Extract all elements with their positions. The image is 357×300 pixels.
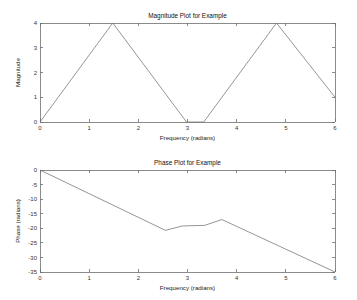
- x-tick-label: 4: [235, 275, 239, 281]
- phase-plot-svg: 0123456-35-30-25-20-15-10-50Phase Plot f…: [0, 150, 357, 300]
- y-tick-label: 3: [34, 45, 38, 51]
- y-tick-label: -25: [28, 240, 37, 246]
- x-axis-label: Frequency (radians): [160, 134, 215, 141]
- x-axis-label: Frequency (radians): [160, 284, 215, 291]
- y-tick-label: 1: [34, 94, 38, 100]
- x-tick-label: 6: [333, 275, 337, 281]
- y-tick-label: 0: [34, 119, 38, 125]
- y-tick-label: -35: [28, 269, 37, 275]
- y-tick-label: -20: [28, 225, 37, 231]
- x-tick-label: 4: [235, 125, 239, 131]
- figure-canvas: 012345601234Magnitude Plot for ExampleFr…: [0, 0, 357, 300]
- data-series-line: [40, 170, 335, 272]
- y-tick-label: 2: [34, 70, 38, 76]
- data-series-line: [40, 23, 335, 122]
- x-tick-label: 2: [137, 275, 141, 281]
- magnitude-plot-panel: 012345601234Magnitude Plot for ExampleFr…: [0, 0, 357, 150]
- x-tick-label: 0: [38, 275, 42, 281]
- x-tick-label: 3: [186, 125, 190, 131]
- plot-title: Phase Plot for Example: [154, 159, 221, 167]
- phase-plot-panel: 0123456-35-30-25-20-15-10-50Phase Plot f…: [0, 150, 357, 300]
- plot-title: Magnitude Plot for Example: [148, 12, 227, 20]
- axes-frame: [40, 23, 335, 122]
- x-tick-label: 5: [284, 125, 288, 131]
- y-tick-label: -5: [32, 182, 38, 188]
- y-tick-label: -15: [28, 211, 37, 217]
- magnitude-plot-svg: 012345601234Magnitude Plot for ExampleFr…: [0, 0, 357, 150]
- x-tick-label: 2: [137, 125, 141, 131]
- x-tick-label: 1: [87, 275, 91, 281]
- x-tick-label: 1: [87, 125, 91, 131]
- axes-frame: [40, 170, 335, 272]
- y-axis-label: Phase (radians): [14, 199, 21, 243]
- x-tick-label: 5: [284, 275, 288, 281]
- y-tick-label: 0: [34, 167, 38, 173]
- x-tick-label: 0: [38, 125, 42, 131]
- y-tick-label: -10: [28, 196, 37, 202]
- y-tick-label: -30: [28, 255, 37, 261]
- y-axis-label: Magnitude: [14, 57, 21, 86]
- x-tick-label: 6: [333, 125, 337, 131]
- y-tick-label: 4: [34, 20, 38, 26]
- x-tick-label: 3: [186, 275, 190, 281]
